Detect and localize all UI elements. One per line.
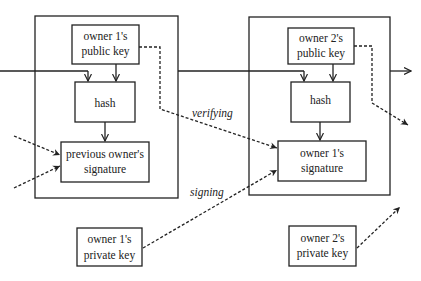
owner1-signature-line1: owner 1's bbox=[300, 147, 344, 159]
owner1-public-key-line1: owner 1's bbox=[84, 30, 128, 42]
owner2-public-key-line1: owner 2's bbox=[299, 32, 343, 44]
owner1-private-key-box: owner 1's private key bbox=[77, 228, 142, 266]
owner2-private-key-box: owner 2's private key bbox=[289, 226, 356, 266]
prev-signature-line2: signature bbox=[84, 163, 126, 176]
transaction-right: owner 2's public key hash owner 1's sign… bbox=[249, 17, 390, 195]
owner1-public-key-line2: public key bbox=[81, 45, 129, 58]
hash-box-left: hash bbox=[75, 82, 135, 122]
hash-label-left: hash bbox=[94, 97, 115, 109]
owner2-private-key-line2: private key bbox=[297, 247, 349, 260]
owner1-signature-line2: signature bbox=[301, 162, 343, 175]
owner2-sign-outgoing-arrow bbox=[357, 207, 400, 248]
incoming-sign-arrow bbox=[14, 166, 60, 188]
owner1-public-key-box: owner 1's public key bbox=[72, 25, 139, 64]
chain-line bbox=[0, 71, 411, 81]
transaction-chain-diagram: owner 1's public key hash previous owner… bbox=[0, 0, 421, 281]
signing-label: signing bbox=[190, 186, 224, 199]
owner2-public-key-line2: public key bbox=[297, 47, 345, 60]
hash-label-right: hash bbox=[310, 94, 331, 106]
diagram-canvas: owner 1's public key hash previous owner… bbox=[0, 0, 421, 281]
owner2-verify-outgoing-arrow bbox=[354, 46, 408, 125]
owner1-private-key-line2: private key bbox=[84, 249, 136, 262]
previous-owner-signature-box: previous owner's signature bbox=[61, 142, 149, 182]
incoming-verify-arrow bbox=[14, 136, 60, 155]
verifying-label: verifying bbox=[192, 107, 233, 120]
owner1-signature-box: owner 1's signature bbox=[278, 141, 366, 181]
prev-signature-line1: previous owner's bbox=[66, 148, 144, 161]
owner1-private-key-line1: owner 1's bbox=[88, 233, 132, 245]
owner2-private-key-line1: owner 2's bbox=[301, 232, 345, 244]
hash-box-right: hash bbox=[291, 82, 350, 122]
owner2-public-key-box: owner 2's public key bbox=[288, 28, 354, 64]
verifying-arrow bbox=[139, 47, 277, 148]
transaction-left: owner 1's public key hash previous owner… bbox=[35, 16, 178, 198]
signing-arrow bbox=[143, 170, 277, 248]
